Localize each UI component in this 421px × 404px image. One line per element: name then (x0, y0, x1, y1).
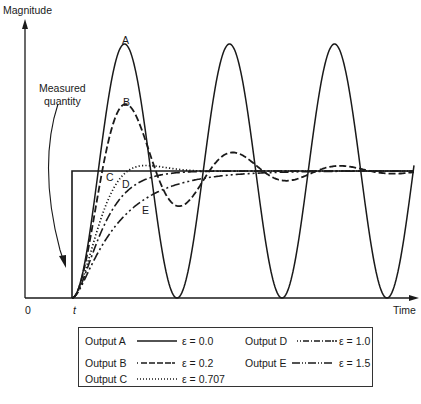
legend-item-b: Output B ε = 0.2 (85, 357, 126, 369)
axes (25, 26, 412, 298)
legend-eps-c: ε = 0.707 (182, 373, 225, 385)
t-tick-label: t (73, 304, 76, 316)
y-axis-label: Magnitude (3, 4, 52, 16)
x-axis-label: Time (393, 304, 416, 316)
legend-output-c: Output C (85, 373, 127, 385)
annotation-arrowhead-icon (59, 255, 66, 268)
legend: Output A ε = 0.0 Output B ε = 0.2 Output… (78, 327, 373, 387)
dotted-line-swatch-icon (137, 373, 177, 385)
curve-b-line (72, 104, 414, 298)
curve-label-d: D (122, 178, 130, 190)
curve-label-c: C (106, 171, 114, 183)
measured-quantity-label: Measured quantity (39, 82, 86, 108)
legend-output-d: Output D (245, 335, 287, 347)
legend-item-a: Output A ε = 0.0 (85, 335, 126, 347)
legend-item-e: Output E ε = 1.5 (245, 357, 286, 369)
dash-dot-line-swatch-icon (297, 335, 337, 347)
legend-eps-e: ε = 1.5 (339, 357, 370, 369)
legend-item-c: Output C ε = 0.707 (85, 373, 127, 385)
curve-label-e: E (142, 204, 149, 216)
curve-label-a: A (122, 34, 129, 46)
legend-output-b: Output B (85, 357, 126, 369)
legend-eps-a: ε = 0.0 (182, 335, 213, 347)
legend-eps-b: ε = 0.2 (182, 357, 213, 369)
dash-dot-dot-line-swatch-icon (292, 357, 332, 369)
x-axis-arrow-icon (409, 295, 419, 301)
origin-label: 0 (25, 304, 31, 316)
legend-output-e: Output E (245, 357, 286, 369)
legend-item-d: Output D ε = 1.0 (245, 335, 287, 347)
y-axis-arrow-icon (22, 19, 28, 29)
dashed-line-swatch-icon (137, 357, 177, 369)
measured-line2: quantity (44, 95, 81, 107)
legend-output-a: Output A (85, 335, 126, 347)
measured-line1: Measured (39, 82, 86, 94)
annotation-arrow (49, 104, 65, 262)
solid-line-swatch-icon (137, 335, 177, 347)
legend-eps-d: ε = 1.0 (339, 335, 370, 347)
curve-label-b: B (123, 96, 130, 108)
